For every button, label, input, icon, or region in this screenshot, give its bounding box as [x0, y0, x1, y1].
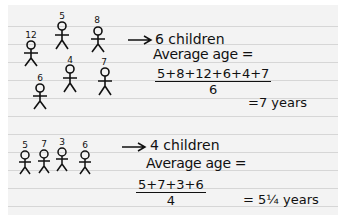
child-age: 8 — [89, 15, 105, 25]
child-age: 7 — [36, 139, 52, 149]
numerator: 5+8+12+6+4+7 — [155, 66, 271, 82]
denominator: 4 — [136, 193, 206, 208]
children-count: 4 children — [150, 137, 220, 153]
stick-figure-icon — [36, 149, 52, 175]
stick-figure-icon — [77, 150, 93, 176]
stick-figure-icon — [53, 21, 71, 51]
child-age: 3 — [54, 137, 70, 147]
child-age: 5 — [54, 11, 70, 21]
fraction: 5+7+3+6 4 — [136, 177, 206, 208]
result: = 5¼ years — [243, 192, 319, 207]
average-age-label: Average age = — [146, 155, 246, 171]
stick-figure-icon — [54, 147, 70, 173]
child-age: 5 — [17, 140, 33, 150]
child-age: 7 — [96, 57, 112, 67]
child-age: 6 — [77, 140, 93, 150]
average-age-label: Average age = — [153, 46, 253, 62]
fraction: 5+8+12+6+4+7 6 — [155, 66, 271, 97]
stick-figure-icon — [89, 26, 107, 54]
numerator: 5+7+3+6 — [136, 177, 206, 193]
stick-figure-icon — [17, 150, 33, 176]
stick-figure-icon — [96, 67, 114, 97]
stick-figure-icon — [22, 40, 40, 68]
result: =7 years — [248, 95, 307, 110]
child-age: 12 — [23, 30, 39, 40]
arrow-right-icon — [127, 35, 153, 45]
stick-figure-icon — [31, 83, 49, 111]
child-age: 6 — [32, 73, 48, 83]
stick-figure-icon — [61, 64, 79, 94]
arrow-right-icon — [121, 142, 147, 152]
children-count: 6 children — [155, 31, 225, 47]
